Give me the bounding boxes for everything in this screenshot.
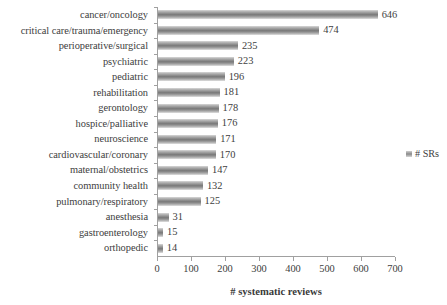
chart-legend: # SRs xyxy=(406,148,439,160)
category-axis-tick xyxy=(154,209,157,210)
value-axis-line xyxy=(157,256,395,257)
bar xyxy=(158,197,201,206)
category-axis-tick xyxy=(154,100,157,101)
bar-value-label: 15 xyxy=(167,226,177,238)
bar-value-label: 181 xyxy=(224,86,240,98)
category-axis-labels: cancer/oncologycritical care/trauma/emer… xyxy=(0,7,152,256)
category-axis-tick xyxy=(154,7,157,8)
category-axis-tick xyxy=(154,178,157,179)
category-label: perioperative/surgical xyxy=(0,38,152,54)
category-label: pediatric xyxy=(0,69,152,85)
bar-value-label: 170 xyxy=(220,149,236,161)
bar xyxy=(158,213,169,222)
value-axis-tick xyxy=(157,257,158,261)
category-label: cancer/oncology xyxy=(0,7,152,23)
bar-value-label: 176 xyxy=(222,117,238,129)
value-axis-tick-label: 100 xyxy=(183,263,199,275)
bar xyxy=(158,135,216,144)
value-axis-tick-label: 0 xyxy=(154,263,159,275)
legend-label-sr: # SRs xyxy=(415,148,439,160)
category-axis-tick xyxy=(154,194,157,195)
bar xyxy=(158,10,378,19)
category-axis-tick xyxy=(154,116,157,117)
category-axis-tick xyxy=(154,69,157,70)
bar xyxy=(158,41,238,50)
category-axis-tick xyxy=(154,38,157,39)
category-label: maternal/obstetrics xyxy=(0,162,152,178)
bar xyxy=(158,57,234,66)
bar-value-label: 147 xyxy=(212,164,228,176)
bar-value-label: 125 xyxy=(205,195,221,207)
category-label: hospice/palliative xyxy=(0,116,152,132)
bar xyxy=(158,228,163,237)
value-axis-tick xyxy=(191,257,192,261)
bar-value-label: 646 xyxy=(382,9,398,21)
category-label: community health xyxy=(0,178,152,194)
bar xyxy=(158,244,163,253)
category-label: psychiatric xyxy=(0,54,152,70)
category-label: gastroenterology xyxy=(0,225,152,241)
bar-value-label: 196 xyxy=(229,71,245,83)
category-label: rehabilitation xyxy=(0,85,152,101)
category-label: gerontology xyxy=(0,100,152,116)
bar-value-label: 235 xyxy=(242,40,258,52)
category-label: cardiovascular/coronary xyxy=(0,147,152,163)
bar-value-label: 132 xyxy=(207,180,223,192)
value-axis-tick-label: 200 xyxy=(217,263,233,275)
category-axis-tick xyxy=(154,147,157,148)
category-axis-tick xyxy=(154,163,157,164)
bar-value-label: 223 xyxy=(238,55,254,67)
bar xyxy=(158,166,208,175)
category-axis-tick xyxy=(154,85,157,86)
category-axis-tick xyxy=(154,54,157,55)
value-axis-tick xyxy=(395,257,396,261)
category-label: pulmonary/respiratory xyxy=(0,194,152,210)
legend-swatch-sr xyxy=(406,151,412,157)
bar xyxy=(158,26,319,35)
category-axis-tick xyxy=(154,132,157,133)
bar xyxy=(158,104,219,113)
bar-value-label: 14 xyxy=(167,242,177,254)
bar xyxy=(158,150,216,159)
category-label: orthopedic xyxy=(0,240,152,256)
bar-value-label: 171 xyxy=(220,133,236,145)
bar-value-label: 474 xyxy=(323,24,339,36)
category-label: neuroscience xyxy=(0,131,152,147)
category-axis-tick xyxy=(154,240,157,241)
bar-chart: cancer/oncologycritical care/trauma/emer… xyxy=(0,0,447,305)
category-axis-tick xyxy=(154,225,157,226)
bar xyxy=(158,88,220,97)
value-axis-tick xyxy=(259,257,260,261)
value-axis-tick-label: 300 xyxy=(251,263,267,275)
value-axis-tick-label: 600 xyxy=(353,263,369,275)
value-axis-tick-label: 700 xyxy=(387,263,403,275)
value-axis-tick-label: 400 xyxy=(285,263,301,275)
bar xyxy=(158,119,218,128)
bar xyxy=(158,72,225,81)
value-axis-tick-label: 500 xyxy=(319,263,335,275)
bar-value-label: 178 xyxy=(223,102,239,114)
value-axis-tick xyxy=(327,257,328,261)
plot-area: 6464742352231961811781761711701471321253… xyxy=(157,7,395,256)
bar xyxy=(158,181,203,190)
value-axis-tick xyxy=(293,257,294,261)
x-axis-title: # systematic reviews xyxy=(157,286,395,297)
category-axis-tick xyxy=(154,23,157,24)
category-label: anesthesia xyxy=(0,209,152,225)
value-axis-tick xyxy=(361,257,362,261)
category-label: critical care/trauma/emergency xyxy=(0,23,152,39)
value-axis-tick xyxy=(225,257,226,261)
bar-value-label: 31 xyxy=(173,211,183,223)
